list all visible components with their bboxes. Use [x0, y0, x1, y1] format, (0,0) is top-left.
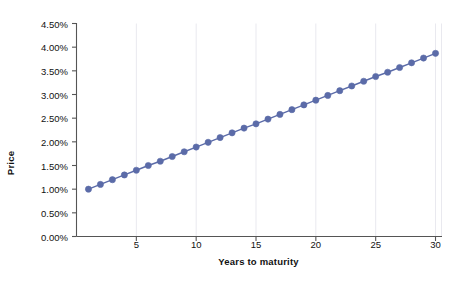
y-axis-tick-label: 1.50%: [12, 160, 68, 171]
data-point-marker: [133, 167, 139, 173]
data-point-marker: [157, 158, 163, 164]
x-axis-tick-label: 20: [301, 239, 331, 250]
data-point-marker: [253, 121, 259, 127]
y-axis-tick-label: 4.00%: [12, 42, 68, 53]
x-axis-tick-label: 25: [361, 239, 391, 250]
data-point-marker: [217, 134, 223, 140]
data-point-marker: [397, 64, 403, 70]
y-axis-tick-label: 0.00%: [12, 231, 68, 242]
data-point-marker: [361, 78, 367, 84]
data-point-marker: [301, 102, 307, 108]
y-axis-title-text: Price: [5, 151, 16, 175]
data-point-marker: [420, 55, 426, 61]
y-axis-tick-label: 2.50%: [12, 113, 68, 124]
data-point-marker: [205, 139, 211, 145]
y-axis-tick-label: 4.50%: [12, 18, 68, 29]
data-point-marker: [349, 83, 355, 89]
series-line-price: [88, 53, 435, 189]
data-point-marker: [109, 177, 115, 183]
y-axis-tick-label: 3.50%: [12, 65, 68, 76]
y-axis-title: Price: [0, 0, 20, 282]
x-axis-tick-label: 10: [181, 239, 211, 250]
gridlines: [136, 24, 441, 237]
data-point-marker: [121, 172, 127, 178]
x-axis-tick-label: 30: [421, 239, 451, 250]
data-point-marker: [229, 130, 235, 136]
y-axis-tick-label: 0.50%: [12, 207, 68, 218]
price-vs-maturity-chart: 0.00%0.50%1.00%1.50%2.00%2.50%3.00%3.50%…: [0, 0, 456, 282]
data-point-marker: [265, 116, 271, 122]
data-point-marker: [385, 69, 391, 75]
data-point-marker: [325, 92, 331, 98]
data-point-marker: [169, 153, 175, 159]
data-point-marker: [193, 144, 199, 150]
series-line: [88, 53, 435, 189]
data-point-marker: [432, 50, 438, 56]
data-point-marker: [289, 107, 295, 113]
data-point-marker: [241, 125, 247, 131]
y-axis-tick-label: 1.00%: [12, 184, 68, 195]
y-axis-tick-label: 2.00%: [12, 136, 68, 147]
axis-ticks: [72, 24, 436, 242]
data-point-marker: [277, 111, 283, 117]
x-axis-tick-label: 15: [241, 239, 271, 250]
data-point-marker: [337, 88, 343, 94]
data-point-marker: [408, 60, 414, 66]
data-point-marker: [97, 181, 103, 187]
data-point-marker: [373, 73, 379, 79]
x-axis-title: Years to maturity: [76, 256, 441, 267]
data-point-marker: [313, 97, 319, 103]
data-point-marker: [85, 186, 91, 192]
data-point-marker: [181, 149, 187, 155]
data-point-marker: [145, 162, 151, 168]
y-axis-tick-label: 3.00%: [12, 89, 68, 100]
x-axis-tick-label: 5: [121, 239, 151, 250]
axes: [77, 23, 443, 237]
